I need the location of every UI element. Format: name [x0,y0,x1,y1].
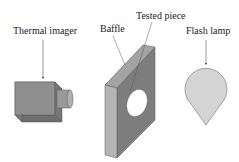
flash-lamp-icon [185,68,227,125]
thermal-imager-icon [15,82,73,122]
baffle-leader [113,36,125,65]
thermal-imager-label: Thermal imager [13,26,77,36]
flash-lamp-label: Flash lamp [186,26,230,36]
tested-piece-label: Tested piece [136,11,186,21]
baffle-icon [105,45,155,158]
baffle-label: Baffle [100,24,125,34]
